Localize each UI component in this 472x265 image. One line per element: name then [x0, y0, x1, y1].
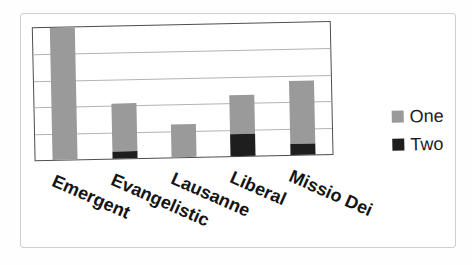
bar-missio-dei — [289, 80, 316, 154]
segment-one-emergent — [50, 27, 78, 159]
segment-two-liberal — [230, 133, 255, 156]
chart-card: EmergentEvangelisticLausanneLiberalMissi… — [20, 13, 456, 248]
legend-label-two: Two — [410, 135, 443, 154]
segment-two-missio-dei — [290, 144, 315, 155]
plot-area — [32, 21, 334, 161]
segment-one-lausanne — [171, 124, 197, 158]
bar-slot-emergent — [33, 27, 95, 160]
legend-swatch-two-icon — [392, 139, 404, 151]
segment-one-missio-dei — [289, 80, 315, 144]
legend-swatch-one-icon — [392, 111, 404, 123]
chart-tilt-group: EmergentEvangelisticLausanneLiberalMissi… — [19, 9, 458, 251]
bar-slot-missio-dei — [270, 22, 332, 155]
bar-series-container — [33, 22, 333, 160]
segment-two-evangelistic — [112, 152, 137, 159]
bar-slot-evangelistic — [92, 26, 154, 159]
x-label-missio-dei: Missio Dei — [286, 167, 375, 221]
legend-label-one: One — [410, 107, 444, 126]
legend: OneTwo — [392, 106, 445, 155]
segment-one-liberal — [230, 95, 256, 134]
legend-row-one: One — [392, 106, 444, 127]
bar-slot-lausanne — [152, 25, 214, 158]
x-axis-labels: EmergentEvangelisticLausanneLiberalMissi… — [19, 9, 453, 18]
bar-evangelistic — [111, 103, 137, 159]
legend-row-two: Two — [392, 134, 444, 155]
bar-lausanne — [171, 124, 197, 158]
bar-slot-liberal — [211, 23, 273, 156]
screenshot-root: EmergentEvangelisticLausanneLiberalMissi… — [0, 0, 472, 265]
bar-liberal — [230, 95, 256, 156]
segment-one-evangelistic — [111, 103, 137, 152]
bar-emergent — [50, 27, 78, 159]
